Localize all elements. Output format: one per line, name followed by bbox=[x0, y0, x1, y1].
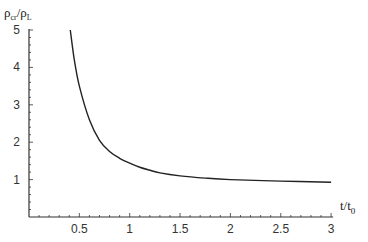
svg-text:t/t0: t/t0 bbox=[340, 198, 356, 216]
x-tick-label: 2.5 bbox=[272, 222, 289, 236]
y-tick-label: 2 bbox=[13, 135, 20, 149]
y-tick-label: 5 bbox=[13, 23, 20, 37]
y-tick-label: 4 bbox=[13, 60, 20, 74]
x-tick-label: 2 bbox=[227, 222, 234, 236]
x-tick-label: 1 bbox=[126, 222, 133, 236]
ticks: 0.511.522.5312345 bbox=[13, 23, 334, 236]
y-axis-label: ρcr/ρL bbox=[4, 5, 32, 22]
y-tick-label: 1 bbox=[13, 173, 20, 187]
x-tick-label: 0.5 bbox=[71, 222, 88, 236]
data-curve bbox=[70, 30, 331, 182]
svg-text:ρcr/ρL: ρcr/ρL bbox=[4, 5, 32, 22]
y-tick-label: 3 bbox=[13, 98, 20, 112]
x-tick-label: 1.5 bbox=[172, 222, 189, 236]
x-axis-label: t/t0 bbox=[340, 198, 356, 216]
x-tick-label: 3 bbox=[328, 222, 335, 236]
axes bbox=[29, 29, 333, 217]
chart: ρcr/ρL t/t0 0.511.522.5312345 bbox=[0, 0, 368, 242]
